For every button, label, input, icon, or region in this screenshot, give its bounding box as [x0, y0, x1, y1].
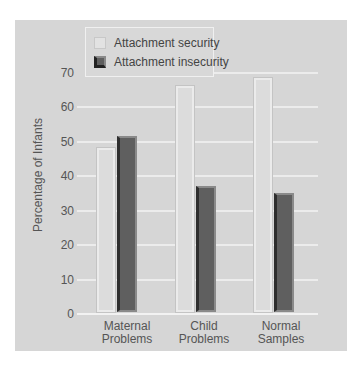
legend-item-security: Attachment security: [94, 36, 219, 50]
bar-insecurity: [274, 193, 294, 312]
legend-item-insecurity: Attachment insecurity: [94, 55, 229, 69]
security-swatch-icon: [94, 37, 106, 49]
y-tick-label: 10: [50, 273, 74, 287]
bar-security: [176, 86, 194, 312]
bar-security: [97, 148, 115, 312]
legend: Attachment security Attachment insecurit…: [85, 27, 214, 77]
y-axis-label: Percentage of Infants: [31, 115, 45, 235]
y-tick-label: 50: [50, 135, 74, 149]
gridline: [212, 72, 318, 74]
y-tick-label: 60: [50, 100, 74, 114]
y-tick-label: 0: [50, 307, 74, 321]
y-tick-label: 70: [50, 66, 74, 80]
y-tick-label: 30: [50, 204, 74, 218]
gridline: [77, 313, 318, 315]
insecurity-swatch-icon: [94, 56, 106, 68]
gridline: [77, 141, 318, 143]
bar-insecurity: [196, 186, 216, 312]
bar-insecurity: [117, 136, 137, 312]
x-label-maternal: Maternal Problems: [87, 320, 167, 346]
gridline: [77, 106, 318, 108]
x-label-child: Child Problems: [164, 320, 244, 346]
y-tick-label: 20: [50, 238, 74, 252]
y-tick-label: 40: [50, 169, 74, 183]
x-label-normal: Normal Samples: [241, 320, 321, 346]
bar-security: [254, 78, 272, 312]
